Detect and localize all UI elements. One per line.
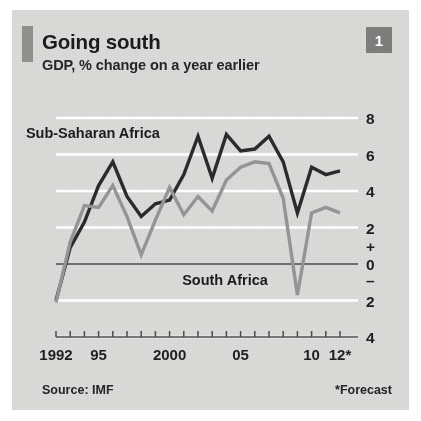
y-axis-label: 2 xyxy=(366,293,375,310)
x-axis-label: 1992 xyxy=(39,346,72,363)
series-label: Sub-Saharan Africa xyxy=(26,125,161,141)
x-axis-label: 12* xyxy=(329,346,352,363)
y-axis-label: 4 xyxy=(366,183,375,200)
y-axis-label: 6 xyxy=(366,147,375,164)
plot-area: 8642024+– 1992952000051012* Sub-Saharan … xyxy=(12,10,409,410)
y-axis-labels: 8642024+– xyxy=(366,110,375,346)
line-chart-svg: 8642024+– 1992952000051012* Sub-Saharan … xyxy=(12,10,409,410)
gridlines-group xyxy=(56,118,358,337)
x-axis-label: 2000 xyxy=(153,346,186,363)
y-axis-minus-sign: – xyxy=(366,272,375,289)
y-axis-label: 2 xyxy=(366,220,375,237)
y-axis-label: 0 xyxy=(366,256,375,273)
y-axis-label: 4 xyxy=(366,329,375,346)
x-axis-labels: 1992952000051012* xyxy=(39,346,351,363)
y-axis-label: 8 xyxy=(366,110,375,127)
chart-figure: Going south GDP, % change on a year earl… xyxy=(12,10,409,410)
x-axis-label: 10 xyxy=(303,346,320,363)
series-label: South Africa xyxy=(182,272,269,288)
y-axis-plus-sign: + xyxy=(366,238,375,255)
x-axis-label: 95 xyxy=(90,346,107,363)
source-note: Source: IMF xyxy=(42,383,114,397)
forecast-note: *Forecast xyxy=(335,383,392,397)
x-axis-label: 05 xyxy=(232,346,249,363)
